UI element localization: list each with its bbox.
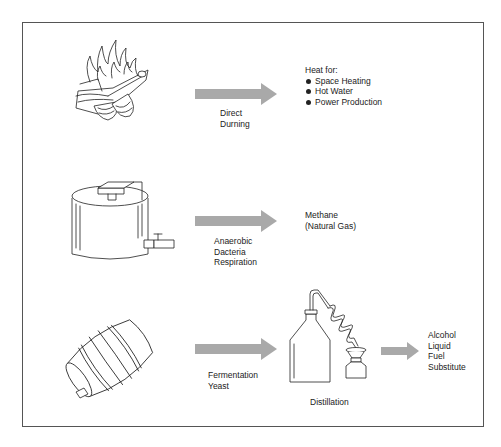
output-methane: Methane (Natural Gas) [305,210,356,231]
distillation-apparatus-icon [288,290,398,390]
arrow-distillation-output [381,342,419,364]
output-heat: Heat for: Space Heating Hot Water Power … [305,65,382,107]
list-item: Hot Water [305,86,382,97]
list-item: Power Production [305,97,382,108]
output-list: Space Heating Hot Water Power Production [305,76,382,108]
process-label-direct-burning: Direct Durning [220,108,250,129]
list-item: Space Heating [305,76,382,87]
tank-icon [70,178,180,268]
process-label-anaerobic: Anaerobic Dacteria Respiration [214,236,257,268]
arrow-direct-burning [195,83,277,109]
campfire-icon [68,36,158,126]
output-alcohol: Alcohol Liquid Fuel Substitute [428,330,466,372]
output-title: Heat for: [305,65,382,76]
arrow-fermentation [195,338,277,364]
barrel-icon [60,308,160,408]
arrow-anaerobic [195,210,277,236]
process-label-fermentation: Fermentation Yeast [208,370,258,391]
intermediate-label-distillation: Distillation [310,397,349,408]
